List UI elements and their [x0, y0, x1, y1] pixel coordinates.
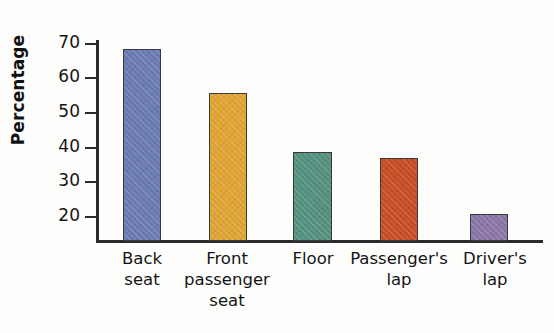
x-category-line: lap [452, 269, 538, 290]
bar-chart: Percentage 70 60 50 40 30 20 [0, 0, 554, 333]
x-category-line: seat [102, 269, 182, 290]
bar-floor[interactable] [293, 152, 332, 241]
x-category-line: Floor [275, 248, 351, 269]
bar-front-passenger-seat[interactable] [209, 93, 247, 241]
x-category-line: lap [349, 269, 449, 290]
bar-passengers-lap[interactable] [380, 158, 419, 241]
bar-texture [294, 153, 331, 240]
bar-back-seat[interactable] [123, 49, 161, 241]
bar-texture [381, 159, 418, 240]
bar-drivers-lap[interactable] [470, 214, 509, 241]
bar-texture [471, 215, 508, 240]
bar-texture [124, 50, 160, 240]
x-category-label-passengers-lap: Passenger's lap [349, 248, 449, 290]
x-category-line: Driver's [452, 248, 538, 269]
x-category-label-front-passenger-seat: Front passenger seat [179, 248, 275, 311]
x-category-line: seat [179, 290, 275, 311]
x-category-label-back-seat: Back seat [102, 248, 182, 290]
x-category-line: passenger [179, 269, 275, 290]
bar-texture [210, 94, 246, 240]
x-category-label-floor: Floor [275, 248, 351, 269]
x-category-label-drivers-lap: Driver's lap [452, 248, 538, 290]
x-category-line: Passenger's [349, 248, 449, 269]
x-category-line: Back [102, 248, 182, 269]
x-category-line: Front [179, 248, 275, 269]
